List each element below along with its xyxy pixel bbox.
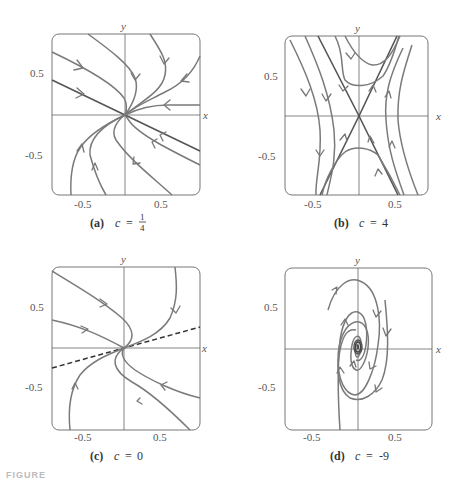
- caption-c: (c) c = 0: [90, 449, 143, 463]
- x-tick-label: 0.5: [153, 431, 167, 443]
- caption-b: (b) c = 4: [334, 216, 388, 230]
- y-axis-label: y: [354, 254, 360, 266]
- y-tick-label: -0.5: [258, 150, 276, 162]
- caption-eq: =: [366, 449, 373, 463]
- y-tick-label: -0.5: [258, 381, 276, 393]
- y-axis-label: y: [354, 22, 360, 34]
- y-axis-label: y: [120, 253, 126, 265]
- y-tick-label: 0.5: [30, 67, 44, 79]
- caption-value: 0: [137, 449, 143, 463]
- panel-a: x y 0.5 -0.5 -0.5 0.5: [25, 20, 208, 233]
- panel-c: x y 0.5 -0.5 -0.5 0.5 (c) c = 0: [25, 253, 207, 463]
- caption-a: (a) c = 1 4: [90, 212, 146, 233]
- caption-eq: =: [126, 216, 133, 230]
- y-tick-label: 0.5: [30, 301, 44, 313]
- y-axis-label: y: [120, 20, 126, 32]
- x-tick-label: -0.5: [303, 431, 321, 443]
- x-axis-label: x: [435, 343, 441, 355]
- caption-value: -9: [379, 449, 389, 463]
- caption-value: 4: [382, 216, 388, 230]
- trajectories: [52, 34, 200, 195]
- x-axis-label: x: [201, 342, 207, 354]
- caption-var: c: [355, 449, 361, 463]
- caption-frac-den: 4: [140, 223, 145, 233]
- x-tick-label: 0.5: [388, 431, 402, 443]
- x-axis-label: x: [202, 109, 208, 121]
- figure-canvas: x y 0.5 -0.5 -0.5 0.5: [0, 0, 460, 480]
- trajectories: [52, 267, 200, 430]
- caption-var: c: [115, 216, 121, 230]
- x-tick-label: 0.5: [388, 198, 402, 210]
- caption-eq: =: [370, 216, 377, 230]
- caption-var: c: [114, 449, 120, 463]
- direction-arrows: [72, 299, 180, 404]
- caption-tag: (a): [90, 216, 104, 230]
- caption-var: c: [359, 216, 365, 230]
- y-tick-label: -0.5: [25, 149, 43, 161]
- caption-frac-num: 1: [140, 212, 145, 222]
- trajectories: [290, 36, 418, 195]
- figure-label: FIGURE: [6, 470, 46, 480]
- caption-tag: (c): [90, 449, 103, 463]
- x-tick-label: -0.5: [74, 431, 92, 443]
- x-tick-label: 0.5: [154, 198, 168, 210]
- x-tick-label: -0.5: [304, 198, 322, 210]
- caption-eq: =: [125, 449, 132, 463]
- y-tick-label: 0.5: [264, 301, 278, 313]
- y-tick-label: -0.5: [25, 381, 43, 393]
- y-tick-label: 0.5: [264, 70, 278, 82]
- plot-frame: [52, 267, 200, 430]
- caption-tag: (b): [334, 216, 349, 230]
- x-tick-label: -0.5: [74, 198, 92, 210]
- caption-d: (d) c = -9: [330, 449, 389, 463]
- x-axis-label: x: [435, 110, 441, 122]
- panel-d: x y 0.5 -0.5 -0.5 0.5 (: [258, 254, 441, 463]
- caption-tag: (d): [330, 449, 345, 463]
- panel-b: x y 0.5 -0.5 -0.5 0.5: [258, 22, 441, 230]
